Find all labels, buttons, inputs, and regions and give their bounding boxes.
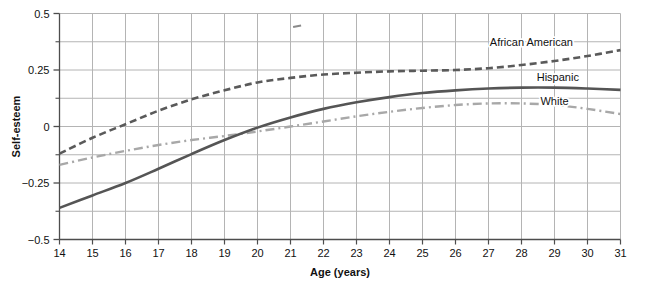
x-tick-label: 23	[350, 247, 362, 259]
x-tick-label: 17	[152, 247, 164, 259]
x-axis-title: Age (years)	[310, 266, 370, 278]
x-tick-label: 16	[119, 247, 131, 259]
y-tick-label: −0.5	[28, 234, 50, 246]
x-tick-label: 31	[614, 247, 626, 259]
x-tick-label: 29	[548, 247, 560, 259]
x-axis-tick-labels: 141516171819202122232425262728293031	[53, 247, 626, 259]
chart-container: −0.5−0.2500.250.5 1415161718192021222324…	[0, 0, 647, 288]
x-tick-label: 28	[515, 247, 527, 259]
x-tick-label: 30	[581, 247, 593, 259]
y-axis-ticks	[54, 14, 60, 240]
series-label-hispanic: Hispanic	[537, 71, 580, 83]
self-esteem-by-age-line-chart: −0.5−0.2500.250.5 1415161718192021222324…	[0, 0, 647, 288]
y-axis-title: Self-esteem	[10, 95, 22, 157]
x-tick-label: 19	[218, 247, 230, 259]
x-tick-label: 22	[317, 247, 329, 259]
y-tick-label: 0.25	[28, 64, 49, 76]
x-tick-label: 21	[284, 247, 296, 259]
x-tick-label: 24	[383, 247, 395, 259]
y-axis-tick-labels: −0.5−0.2500.250.5	[22, 8, 50, 246]
x-tick-label: 26	[449, 247, 461, 259]
y-tick-label: −0.25	[22, 177, 50, 189]
x-tick-label: 27	[482, 247, 494, 259]
y-tick-label: 0	[43, 121, 49, 133]
series-label-african-american: African American	[490, 36, 573, 48]
series-label-white: White	[540, 95, 568, 107]
x-tick-label: 15	[86, 247, 98, 259]
x-axis-ticks	[60, 240, 621, 245]
y-tick-label: 0.5	[34, 8, 49, 20]
x-tick-label: 20	[251, 247, 263, 259]
x-tick-label: 14	[53, 247, 65, 259]
x-tick-label: 18	[185, 247, 197, 259]
x-tick-label: 25	[416, 247, 428, 259]
